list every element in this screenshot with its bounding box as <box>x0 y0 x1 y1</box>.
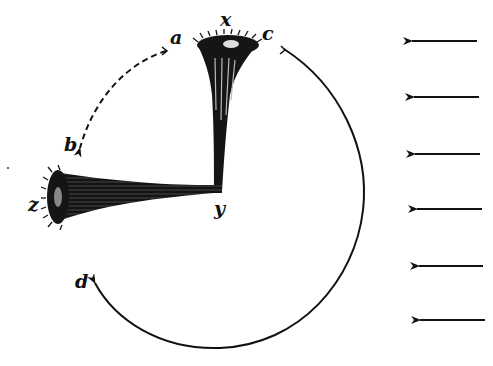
diagram-svg: a b c d x y z <box>0 0 493 366</box>
label-a: a <box>170 26 182 48</box>
label-b: b <box>64 133 77 155</box>
arc-tail-c <box>280 46 285 54</box>
label-z: z <box>27 193 40 215</box>
figure: a b c d x y z <box>0 0 493 366</box>
horizontal-organism <box>41 165 222 230</box>
dashed-arc-a-to-b <box>80 51 166 148</box>
label-c: c <box>262 22 274 44</box>
label-d: d <box>75 270 88 292</box>
upright-organism <box>193 29 262 192</box>
parallel-arrows <box>412 41 485 320</box>
label-x: x <box>219 8 232 30</box>
label-y: y <box>213 197 227 219</box>
speck <box>7 167 9 169</box>
